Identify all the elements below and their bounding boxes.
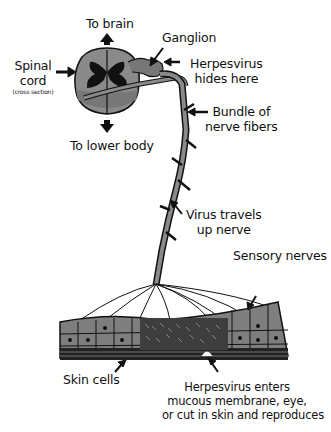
label-hides-line1: Herpesvirus	[190, 56, 263, 71]
label-enters-line3: or cut in skin and reproduces	[162, 408, 312, 422]
label-enters-line1: Herpesvirus enters	[162, 380, 312, 394]
arrow-up-icon	[100, 33, 114, 42]
label-enters-line2: mucous membrane, eye,	[162, 394, 312, 408]
arrow-down-icon	[100, 124, 114, 133]
nerve-fiber-bundle	[156, 74, 196, 285]
label-sensory-nerves: Sensory nerves	[233, 248, 327, 263]
label-cross-section: (cross section)	[10, 88, 56, 95]
label-hides-line2: hides here	[190, 71, 263, 86]
label-herpesvirus-hides: Herpesvirus hides here	[190, 56, 263, 86]
label-herpesvirus-enters: Herpesvirus enters mucous membrane, eye,…	[162, 380, 312, 422]
label-virus-travels: Virus travels up nerve	[186, 207, 261, 237]
spinal-cord-cross-section	[75, 48, 186, 114]
label-spinal-cord: Spinal cord (cross section)	[10, 58, 56, 95]
label-bundle-nerve-fibers: Bundle of nerve fibers	[205, 104, 278, 134]
label-bundle-line2: nerve fibers	[205, 119, 278, 134]
label-virus-line1: Virus travels	[186, 207, 261, 222]
label-bundle-line1: Bundle of	[205, 104, 278, 119]
label-to-brain: To brain	[86, 16, 134, 31]
label-skin-cells: Skin cells	[63, 372, 120, 387]
label-virus-line2: up nerve	[186, 222, 261, 237]
label-ganglion: Ganglion	[162, 30, 216, 45]
label-spinal-line2: cord	[10, 73, 56, 88]
label-spinal-line1: Spinal	[10, 58, 56, 73]
label-to-lower-body: To lower body	[70, 138, 154, 153]
